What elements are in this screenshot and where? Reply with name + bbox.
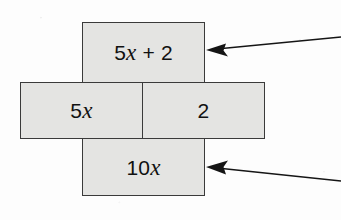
middle-left-box-label: 5x <box>70 99 92 122</box>
arrow-to-top-box-shaft <box>222 37 341 49</box>
arrow-to-top-box <box>206 37 341 57</box>
top-box: 5x + 2 <box>82 22 205 83</box>
algebra-area-model-diagram: 5x + 2 5x 2 10x algebra-tile-area-model <box>0 0 341 220</box>
arrow-to-bottom-box <box>206 161 341 182</box>
middle-left-box: 5x <box>20 82 143 139</box>
arrow-to-bottom-box-shaft <box>222 169 341 182</box>
middle-right-box-label: 2 <box>198 100 210 121</box>
bottom-box-label: 10x <box>126 156 160 179</box>
arrow-to-top-box-head <box>206 44 228 57</box>
variable-x-glyph: x <box>82 98 92 123</box>
middle-right-box: 2 <box>142 82 265 139</box>
arrow-to-bottom-box-head <box>206 161 228 175</box>
figure-type: algebra-tile-area-model <box>0 0 1 1</box>
variable-x-glyph: x <box>150 155 160 180</box>
bottom-box: 10x <box>82 138 205 196</box>
variable-x-glyph: x <box>126 40 136 65</box>
top-box-label: 5x + 2 <box>114 41 173 64</box>
